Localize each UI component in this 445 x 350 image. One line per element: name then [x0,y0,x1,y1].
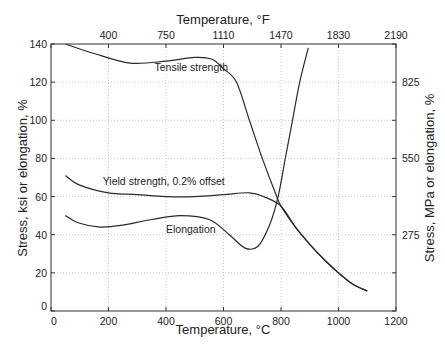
line-chart: 0200400600800100012004007501110147018302… [0,0,445,350]
y-tick-label: 0 [41,300,47,312]
x2-tick-label: 750 [157,29,175,41]
x-tick-label: 800 [272,315,290,327]
y2-tick-label: 275 [402,229,420,241]
x-tick-label: 400 [157,315,175,327]
x2-tick-label: 1470 [269,29,293,41]
y2-tick-label: 550 [402,152,420,164]
curve-annotation: Tensile strength [155,61,229,73]
data-curves [65,44,367,291]
tensile-strength-curve [65,44,367,291]
y2-axis-title: Stress, MPa or elongation, % [422,93,437,262]
elongation-curve [65,48,308,250]
yield-strength-curve [65,176,367,291]
x2-tick-label: 1110 [213,29,235,41]
y-tick-label: 120 [29,76,47,88]
x-tick-label: 1000 [327,315,351,327]
x2-axis-title: Temperature, °F [176,12,269,27]
y-tick-label: 140 [29,38,47,50]
y-tick-label: 20 [35,267,47,279]
x-tick-label: 0 [51,315,57,327]
y-tick-label: 100 [29,114,47,126]
y-axis-title: Stress, ksi or elongation, % [15,99,30,257]
x2-tick-label: 400 [100,29,118,41]
curve-annotation: Elongation [166,223,216,235]
curve-labels: Tensile strengthYield strength, 0.2% off… [103,61,228,235]
x2-tick-label: 2190 [384,29,408,41]
y-tick-label: 80 [35,152,47,164]
x-tick-label: 200 [100,315,118,327]
y2-tick-label: 825 [402,76,420,88]
x2-tick-label: 1830 [327,29,351,41]
y-tick-label: 40 [35,229,47,241]
curve-annotation: Yield strength, 0.2% offset [103,175,225,187]
x-axis-title: Temperature, °C [176,322,271,337]
x-tick-label: 1200 [384,315,408,327]
y-tick-label: 60 [35,191,47,203]
